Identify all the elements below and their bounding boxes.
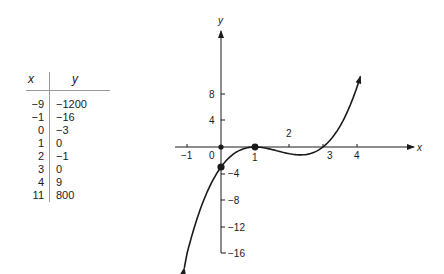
point-y-intercept bbox=[217, 163, 224, 170]
y-tick-label: −4 bbox=[228, 168, 240, 179]
x-axis-label: x bbox=[416, 142, 423, 153]
point-origin bbox=[218, 144, 223, 149]
point-double-root bbox=[252, 144, 259, 151]
y-axis-label: y bbox=[217, 15, 224, 26]
y-tick-label: 8 bbox=[209, 89, 215, 100]
y-tick-label: −12 bbox=[228, 222, 245, 233]
y-tick-label: 4 bbox=[209, 115, 215, 126]
cubic-curve bbox=[184, 77, 360, 269]
x-tick-label: −1 bbox=[181, 150, 193, 161]
x-tick-label: 0 bbox=[209, 150, 215, 161]
x-tick-label: 1 bbox=[252, 152, 258, 163]
x-tick-label: 2 bbox=[286, 128, 292, 139]
cubic-plot: x y −1 0 1 2 3 4 8 4 −4 −8 −12 −16 bbox=[0, 0, 444, 274]
y-ticks bbox=[221, 94, 225, 227]
x-tick-label: 3 bbox=[327, 150, 333, 161]
y-tick-label: −16 bbox=[228, 248, 245, 259]
x-tick-label: 4 bbox=[354, 150, 360, 161]
y-tick-label: −8 bbox=[228, 195, 240, 206]
